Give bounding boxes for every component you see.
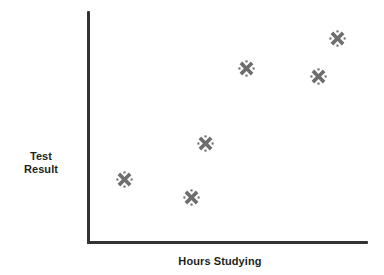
- x-axis-label: Hours Studying: [120, 255, 320, 268]
- data-point-marker: [310, 68, 327, 85]
- scatter-chart-figure: Test Result Hours Studying: [0, 0, 384, 275]
- data-point-marker: [238, 60, 255, 77]
- plot-area: [0, 0, 384, 275]
- data-point-marker: [183, 189, 200, 206]
- y-axis-label-line-2: Result: [8, 163, 74, 176]
- data-point-marker: [197, 135, 214, 152]
- data-point-marker: [329, 30, 346, 47]
- y-axis-label: Test Result: [8, 150, 74, 176]
- data-point-marker: [116, 171, 133, 188]
- y-axis-label-line-1: Test: [8, 150, 74, 163]
